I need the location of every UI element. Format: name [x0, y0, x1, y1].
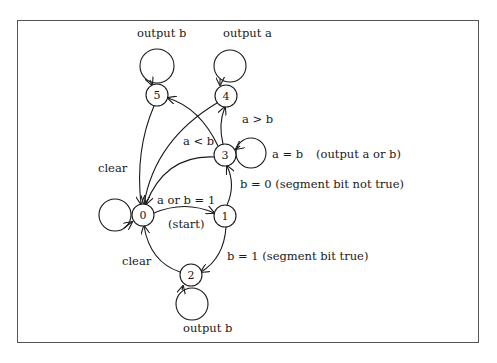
- label-output-a-or-b: (output a or b): [316, 147, 401, 161]
- loop-state-5: [140, 49, 174, 85]
- label-start: (start): [168, 217, 204, 231]
- svg-text:3: 3: [222, 149, 229, 162]
- label-b-eq-0: b = 0 (segment bit not true): [240, 177, 404, 191]
- edge-3-to-4: [221, 107, 225, 144]
- loop-state-2: [176, 286, 208, 320]
- label-a-gt-b: a > b: [242, 112, 273, 126]
- label-b-eq-1: b = 1 (segment bit true): [227, 249, 368, 263]
- state-0: 0: [132, 204, 154, 226]
- state-4: 4: [215, 85, 237, 107]
- label-a-or-b-eq-1: a or b = 1: [157, 193, 215, 207]
- label-a-lt-b: a < b: [183, 134, 214, 148]
- state-diagram: 0 1 2 3 4 5 output b output a a > b a < …: [0, 0, 497, 363]
- svg-text:2: 2: [188, 269, 195, 282]
- loop-state-0: [99, 199, 132, 231]
- svg-text:1: 1: [222, 210, 229, 223]
- state-1: 1: [214, 205, 236, 227]
- svg-text:5: 5: [154, 89, 161, 102]
- edge-1-to-2: [201, 227, 226, 272]
- edge-0-to-1: [154, 207, 214, 214]
- label-clear-upper: clear: [98, 161, 128, 175]
- label-clear-lower: clear: [122, 254, 152, 268]
- label-output-b-bottom: output b: [183, 321, 232, 335]
- svg-text:0: 0: [140, 209, 147, 222]
- edge-4-to-0: [144, 103, 217, 204]
- loop-state-4: [214, 50, 246, 85]
- state-2: 2: [180, 264, 202, 286]
- state-3: 3: [214, 144, 236, 166]
- label-output-a-top: output a: [223, 26, 272, 40]
- loop-state-3: [236, 138, 266, 168]
- svg-text:4: 4: [223, 90, 230, 103]
- edge-1-to-3: [227, 166, 232, 205]
- label-a-eq-b: a = b: [272, 147, 303, 161]
- label-output-b-top: output b: [137, 26, 186, 40]
- state-5: 5: [146, 84, 168, 106]
